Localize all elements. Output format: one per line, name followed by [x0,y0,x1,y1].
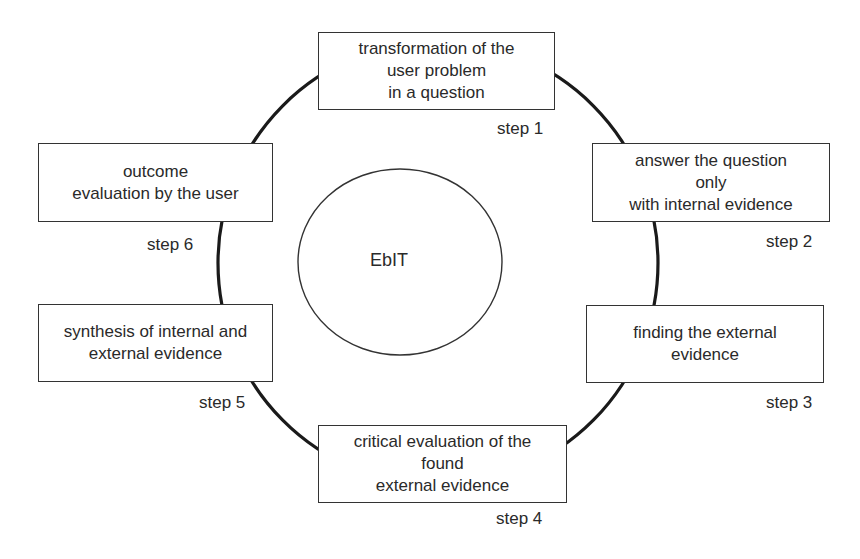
step-4-text-line: external evidence [376,475,509,497]
center-label-ebit: EbIT [370,250,408,271]
step-4-box: critical evaluation of the found externa… [318,425,567,503]
step-6-text-line: outcome [123,161,188,183]
step-1-text-line: transformation of the [359,38,515,60]
step-3-box: finding the external evidence [586,305,824,383]
step-6-text-line: evaluation by the user [72,183,238,205]
step-5-text-line: synthesis of internal and [64,321,247,343]
step-5-box: synthesis of internal and external evide… [38,304,273,382]
step-3-label: step 3 [766,393,812,413]
step-2-box: answer the question only with internal e… [592,143,830,222]
step-3-text-line: finding the external [633,322,777,344]
step-1-box: transformation of the user problem in a … [318,32,555,110]
step-2-text-line: only [695,172,726,194]
step-3-text-line: evidence [671,344,739,366]
step-1-text-line: in a question [388,82,484,104]
step-2-text-line: with internal evidence [629,194,792,216]
step-4-text-line: critical evaluation of the [354,431,532,453]
step-5-label: step 5 [199,393,245,413]
step-5-text-line: external evidence [89,343,222,365]
step-2-text-line: answer the question [635,150,787,172]
step-2-label: step 2 [766,232,812,252]
step-4-label: step 4 [496,509,542,529]
step-1-label: step 1 [497,119,543,139]
step-4-text-line: found [421,453,464,475]
step-1-text-line: user problem [387,60,486,82]
step-6-label: step 6 [147,235,193,255]
step-6-box: outcome evaluation by the user [38,143,273,222]
